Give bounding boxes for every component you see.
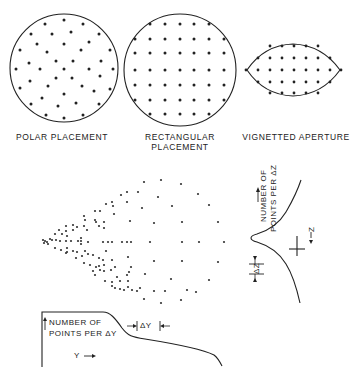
vignetted-aperture bbox=[245, 44, 343, 96]
rectangular-placement-label-line2: PLACEMENT bbox=[133, 142, 227, 153]
delta-z-label: ΔZ bbox=[252, 263, 262, 274]
spot-diagram bbox=[42, 179, 225, 304]
rectangular-placement-aperture bbox=[124, 14, 236, 126]
delta-y-label: ΔY bbox=[140, 321, 152, 331]
y-plot-ylabel-line2: POINTS PER ΔY bbox=[49, 329, 117, 339]
y-plot-ylabel-line1: NUMBER OF bbox=[49, 318, 102, 328]
vignetted-aperture-label: VIGNETTED APERTURE bbox=[240, 132, 352, 143]
polar-placement-aperture bbox=[10, 14, 118, 122]
z-axis-label: Z bbox=[307, 227, 317, 232]
z-plot-ylabel-line2: POINTS PER ΔZ bbox=[269, 165, 279, 232]
z-plot-ylabel-line1: NUMBER OF bbox=[259, 170, 269, 223]
y-axis-label: Y bbox=[74, 351, 80, 361]
polar-placement-label: POLAR PLACEMENT bbox=[8, 132, 116, 143]
